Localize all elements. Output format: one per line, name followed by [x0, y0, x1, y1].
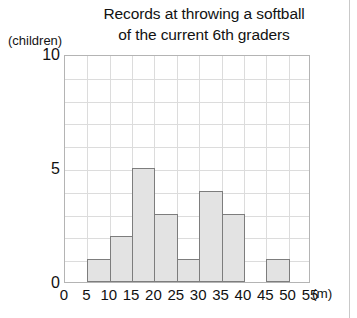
plot-area [64, 55, 310, 283]
bar [199, 191, 223, 282]
bar [132, 168, 155, 282]
x-axis-tick-label: 55 [295, 286, 325, 303]
y-axis-tick-label: 10 [20, 47, 60, 63]
bar [266, 259, 290, 282]
bar [87, 259, 111, 282]
chart-title-line-2: of the current 6th graders [78, 24, 330, 45]
bar [110, 236, 133, 282]
chart-title-line-1: Records at throwing a softball [78, 3, 330, 24]
y-axis-tick-labels: 0510 [14, 55, 60, 283]
bar [154, 214, 178, 282]
bar [177, 259, 200, 282]
bars-layer [65, 56, 309, 282]
page-edge-rule [349, 0, 350, 318]
chart-page: Records at throwing a softball of the cu… [0, 0, 357, 318]
x-axis-tick-labels: 0510152025303540455055 [64, 286, 310, 306]
y-axis-tick-label: 5 [20, 161, 60, 177]
chart-title: Records at throwing a softball of the cu… [78, 3, 330, 45]
bar [222, 214, 245, 282]
